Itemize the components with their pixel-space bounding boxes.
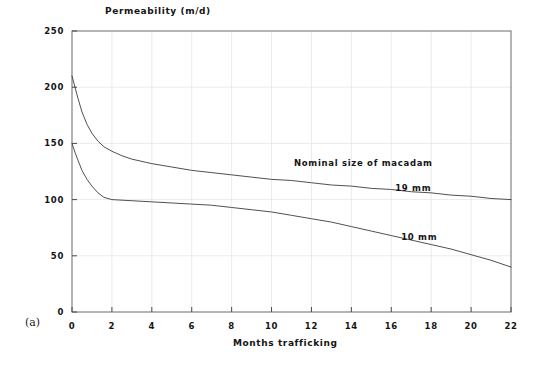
x-tick-label: 12 [305,321,318,331]
y-tick-label: 0 [28,307,64,317]
x-tick-label: 22 [504,321,517,331]
x-tick-label: 6 [188,321,195,331]
curve-annotation: 19 mm [395,183,431,193]
x-tick-label: 4 [149,321,156,331]
gridlines-group [72,31,511,312]
series-line-1 [72,76,511,200]
curve-annotation: 10 mm [401,232,437,242]
x-tick-label: 18 [425,321,438,331]
x-tick-label: 8 [228,321,235,331]
plot-canvas [0,0,546,367]
x-tick-label: 2 [109,321,116,331]
y-tick-label: 200 [28,82,64,92]
axis-ticks-group [72,31,511,312]
curve-annotation: Nominal size of macadam [294,158,433,168]
plot-frame [72,31,511,312]
x-tick-label: 20 [464,321,477,331]
data-series-group [72,76,511,267]
y-tick-label: 50 [28,251,64,261]
y-tick-label: 250 [28,26,64,36]
x-tick-label: 16 [385,321,398,331]
x-tick-label: 14 [345,321,358,331]
axes-frame-group [72,31,511,312]
permeability-chart-figure: Permeability (m/d) Months trafficking (a… [0,0,546,367]
series-line-2 [72,143,511,267]
y-tick-label: 150 [28,138,64,148]
x-tick-label: 0 [69,321,76,331]
x-tick-label: 10 [265,321,278,331]
y-tick-label: 100 [28,195,64,205]
